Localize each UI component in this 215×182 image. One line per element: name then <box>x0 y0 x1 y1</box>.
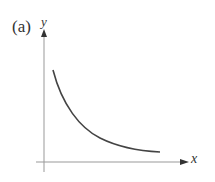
graph-figure: (a) y x <box>0 0 215 182</box>
y-axis-arrow-icon <box>41 29 47 37</box>
x-axis-arrow-icon <box>180 159 189 165</box>
y-axis-label: y <box>41 14 47 30</box>
decay-curve <box>53 70 160 152</box>
graph-plot <box>0 0 215 182</box>
x-axis-label: x <box>191 151 197 167</box>
panel-label: (a) <box>12 17 31 37</box>
